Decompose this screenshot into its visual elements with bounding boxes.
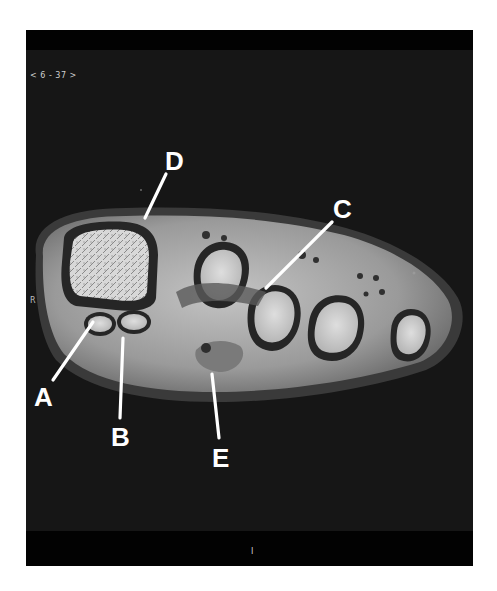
label-e: E — [212, 445, 229, 471]
viewer-bottom-bar: I — [26, 531, 473, 566]
mri-viewer-frame: < 6 - 37 > R A B C D E I — [26, 30, 473, 566]
orientation-marker-right: R — [30, 296, 36, 305]
label-b: B — [111, 424, 130, 450]
mri-image — [26, 30, 473, 566]
bottom-marker: I — [251, 547, 253, 556]
label-d: D — [165, 148, 184, 174]
label-c: C — [333, 196, 352, 222]
slice-indicator: < 6 - 37 > — [30, 71, 77, 80]
first-metatarsal-marrow — [70, 230, 149, 301]
label-a: A — [34, 384, 53, 410]
